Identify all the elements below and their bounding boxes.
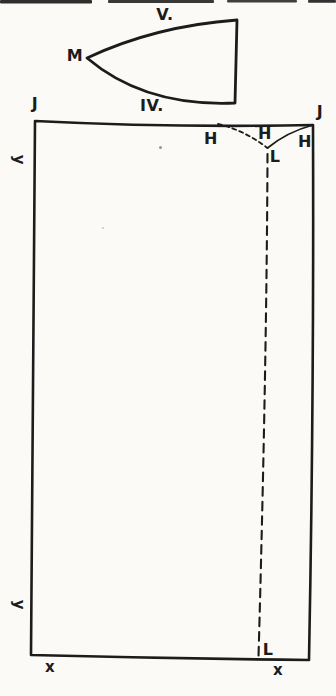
label-corner-j-right: J [317, 104, 323, 120]
label-dart-h-left: H [204, 131, 218, 147]
label-piece-v-number: V. [156, 7, 173, 23]
label-side-y-upper: y [11, 155, 26, 165]
label-corner-j-left: J [32, 96, 38, 112]
pattern-linework [0, 0, 336, 696]
label-dart-l-top: L [270, 149, 281, 165]
paper-speck [102, 227, 104, 229]
label-point-m: M [67, 48, 83, 64]
label-bottom-x-right: x [273, 663, 283, 678]
label-piece-iv-number: IV. [140, 98, 164, 114]
label-side-y-lower: y [11, 600, 26, 610]
label-dart-h-middle: H [258, 126, 272, 142]
paper-speck [159, 146, 162, 149]
piece-iv-outline [31, 121, 313, 660]
piece-v-outline [87, 20, 237, 103]
label-dart-h-right: H [298, 134, 312, 150]
fold-line-dashed [259, 154, 268, 657]
scan-crop-band [0, 0, 336, 4]
label-fold-l-bottom: L [263, 642, 274, 658]
label-bottom-x-left: x [45, 660, 55, 675]
scanned-pattern-page: V. M IV. J J H H H L y y L x x [0, 0, 336, 696]
